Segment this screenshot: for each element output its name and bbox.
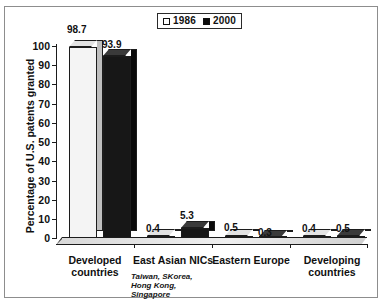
y-tick-label-90: 90 xyxy=(24,60,50,70)
bar-top-face xyxy=(69,40,97,47)
bar-eastern-europe-1986 xyxy=(225,236,253,238)
y-tick-mark xyxy=(52,200,56,201)
y-tick-label-100: 100 xyxy=(24,41,50,51)
y-axis-line xyxy=(56,44,57,239)
x-category-label-east-asian-nics: East Asian NICs xyxy=(132,254,214,266)
bar-front-face xyxy=(147,236,175,238)
x-category-separator xyxy=(134,244,135,248)
bar-side-face xyxy=(287,230,293,232)
x-category-note-east-asian-nics: Taiwan, SKorea,Hong Kong,Singapore xyxy=(131,272,227,299)
white-square-icon xyxy=(163,18,170,25)
y-tick-label-80: 80 xyxy=(24,79,50,89)
chart-plot-area: 1986 2000 Percentage of U.S. patents gra… xyxy=(0,0,387,306)
bar-front-face xyxy=(181,228,209,238)
y-tick-label-20: 20 xyxy=(24,195,50,205)
x-category-separator xyxy=(367,244,368,248)
y-tick-label-60: 60 xyxy=(24,118,50,128)
legend-label-2000: 2000 xyxy=(213,16,236,26)
bar-top-face xyxy=(181,221,209,228)
category-line-2: countries xyxy=(56,266,134,278)
y-tick-label-40: 40 xyxy=(24,156,50,166)
y-tick-label-0: 0 xyxy=(24,233,50,243)
x-category-label-developed: Developed countries xyxy=(56,254,134,278)
y-tick-label-10: 10 xyxy=(24,214,50,224)
y-tick-mark xyxy=(52,104,56,105)
bar-developing-1986 xyxy=(303,236,331,238)
category-line-1: Developing xyxy=(293,254,371,266)
bar-value-developing-2000: 0.5 xyxy=(336,224,350,234)
y-tick-mark xyxy=(52,238,56,239)
bar-developing-2000 xyxy=(337,236,365,238)
bar-side-face xyxy=(131,49,137,231)
bar-value-nics-1986: 0.4 xyxy=(146,224,160,234)
category-line-2: countries xyxy=(293,266,371,278)
x-category-separator xyxy=(212,244,213,248)
x-category-label-developing: Developing countries xyxy=(293,254,371,278)
bar-front-face xyxy=(69,47,97,238)
bar-side-face xyxy=(365,229,371,231)
bar-developed-1986 xyxy=(69,47,97,238)
bar-front-face xyxy=(337,236,365,238)
legend-label-1986: 1986 xyxy=(173,16,196,26)
bar-value-developed-2000: 93.9 xyxy=(102,40,121,50)
y-tick-mark xyxy=(52,142,56,143)
y-tick-mark xyxy=(52,161,56,162)
y-tick-mark xyxy=(52,46,56,47)
bar-side-face xyxy=(209,221,215,231)
y-tick-mark xyxy=(52,123,56,124)
x-category-separator xyxy=(290,244,291,248)
x-category-label-eastern-europe: Eastern Europe xyxy=(211,254,291,266)
bar-top-face xyxy=(103,49,131,56)
y-tick-label-30: 30 xyxy=(24,176,50,186)
legend-entry-2000: 2000 xyxy=(203,16,236,26)
category-line-1: East Asian NICs xyxy=(132,254,214,266)
y-tick-label-70: 70 xyxy=(24,99,50,109)
bar-nics-1986 xyxy=(147,236,175,238)
bar-front-face xyxy=(103,56,131,238)
y-tick-mark xyxy=(52,219,56,220)
bar-value-nics-2000: 5.3 xyxy=(180,211,194,221)
y-tick-label-50: 50 xyxy=(24,137,50,147)
legend-entry-1986: 1986 xyxy=(163,16,196,26)
bar-value-eastern-europe-1986: 0.5 xyxy=(224,223,238,233)
bar-developed-2000 xyxy=(103,56,131,238)
bar-front-face xyxy=(225,236,253,238)
y-tick-mark xyxy=(52,65,56,66)
bar-nics-2000 xyxy=(181,228,209,238)
bar-value-eastern-europe-2000: 0.3 xyxy=(258,228,272,238)
bar-front-face xyxy=(303,236,331,238)
y-tick-mark xyxy=(52,84,56,85)
bar-value-developing-1986: 0.4 xyxy=(302,224,316,234)
black-square-icon xyxy=(203,18,210,25)
y-tick-mark xyxy=(52,181,56,182)
category-line-1: Eastern Europe xyxy=(211,254,291,266)
chart-legend: 1986 2000 xyxy=(157,13,242,29)
category-line-1: Developed xyxy=(56,254,134,266)
bar-value-developed-1986: 98.7 xyxy=(67,25,86,35)
